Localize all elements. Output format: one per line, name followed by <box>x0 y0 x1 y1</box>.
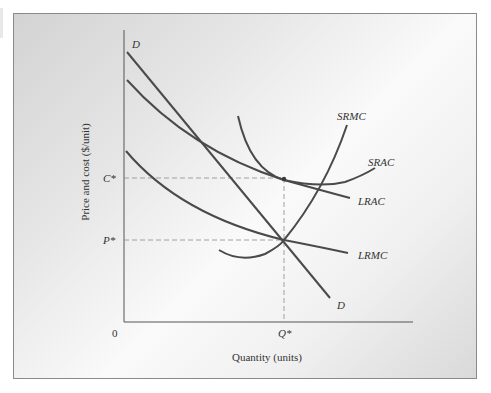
tick-c-star: C* <box>103 173 116 184</box>
label-d-top: D <box>132 39 140 50</box>
chart-plot <box>0 0 491 393</box>
tick-p-star: P* <box>103 235 115 246</box>
tick-origin: 0 <box>112 328 118 339</box>
tangency-point <box>282 177 286 181</box>
demand-curve <box>127 52 330 298</box>
label-srac: SRAC <box>368 157 394 168</box>
srac-curve <box>238 116 375 185</box>
label-d-bottom: D <box>337 300 345 311</box>
label-srmc: SRMC <box>337 111 366 122</box>
lrmc-curve <box>126 151 348 253</box>
tick-q-star: Q* <box>278 328 291 339</box>
y-axis-label: Price and cost ($/unit) <box>79 123 91 220</box>
lrac-curve <box>127 80 350 198</box>
x-axis-label: Quantity (units) <box>232 352 302 363</box>
label-lrac: LRAC <box>358 196 385 207</box>
figure: D SRMC SRAC LRAC LRMC D C* P* 0 Q* Quant… <box>0 0 491 393</box>
label-lrmc: LRMC <box>358 250 387 261</box>
